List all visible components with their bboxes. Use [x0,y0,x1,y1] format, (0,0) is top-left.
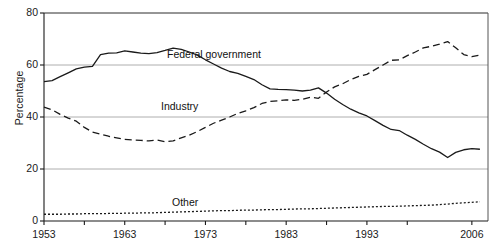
gridlines [44,13,488,169]
x-tick-label-1953: 1953 [21,228,67,240]
data-series [44,42,480,215]
y-tick-label-0: 0 [12,214,38,226]
y-tick-label-60: 60 [12,58,38,70]
y-tick-label-40: 40 [12,110,38,122]
series-label-other: Other [172,196,198,208]
x-tick-label-1993: 1993 [344,228,390,240]
y-tick-label-20: 20 [12,162,38,174]
series-label-industry: Industry [161,100,198,112]
line-chart: Percentage 020406080 1953196319731983199… [0,0,496,250]
x-tick-label-1963: 1963 [102,228,148,240]
y-axis-ticks [40,13,44,221]
series-label-federal-government: Federal government [167,48,261,60]
x-axis-ticks [44,221,472,225]
x-tick-label-1973: 1973 [182,228,228,240]
y-tick-label-80: 80 [12,6,38,18]
plot-area [0,0,496,250]
x-tick-label-1983: 1983 [263,228,309,240]
x-tick-label-2006: 2006 [449,228,495,240]
